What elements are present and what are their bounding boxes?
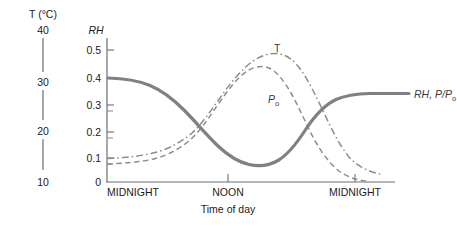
curve-label-relative-humidity-sub: o — [452, 94, 456, 103]
curve-label-vapor-pressure: Po — [268, 93, 279, 108]
chart-series-group — [107, 53, 409, 181]
y-tick-label-0.2: 0.2 — [86, 126, 101, 138]
x-tick-label-midnight-end: MIDNIGHT — [329, 186, 381, 198]
y-axis-label: RH — [88, 24, 104, 36]
temperature-tick-label-30: 30 — [37, 76, 49, 88]
plot-axes: RH 0.5 0.4 0.3 0.2 0.1 0 MIDNIGHT NOON M… — [86, 24, 395, 215]
series-temperature-curve — [107, 53, 382, 174]
curve-labels-group: T Po RH, P/Po — [268, 42, 456, 108]
temperature-tick-label-20: 20 — [37, 125, 49, 137]
curve-label-vapor-pressure-main: P — [268, 93, 275, 105]
temperature-tick-label-10: 10 — [37, 176, 49, 188]
y-tick-label-0.4: 0.4 — [86, 72, 101, 84]
temperature-axis-header: T (°C) — [29, 8, 57, 20]
y-tick-label-0.5: 0.5 — [86, 44, 101, 56]
y-tick-label-0.3: 0.3 — [86, 99, 101, 111]
curve-label-relative-humidity-main: RH, P/P — [414, 88, 452, 100]
curve-label-vapor-pressure-sub: o — [275, 99, 279, 108]
temperature-axis-panel: T (°C) 40 30 20 10 — [29, 8, 57, 188]
chart-svg: T (°C) 40 30 20 10 — [0, 0, 457, 226]
x-tick-label-midnight-start: MIDNIGHT — [107, 186, 159, 198]
humidity-temperature-chart: T (°C) 40 30 20 10 — [0, 0, 457, 226]
x-axis-title: Time of day — [201, 203, 256, 215]
temperature-tick-label-40: 40 — [37, 24, 49, 36]
y-tick-label-0: 0 — [95, 176, 101, 188]
y-tick-label-0.1: 0.1 — [86, 152, 101, 164]
x-tick-label-noon: NOON — [212, 186, 244, 198]
curve-label-temperature: T — [274, 42, 281, 54]
curve-label-relative-humidity: RH, P/Po — [414, 88, 456, 103]
